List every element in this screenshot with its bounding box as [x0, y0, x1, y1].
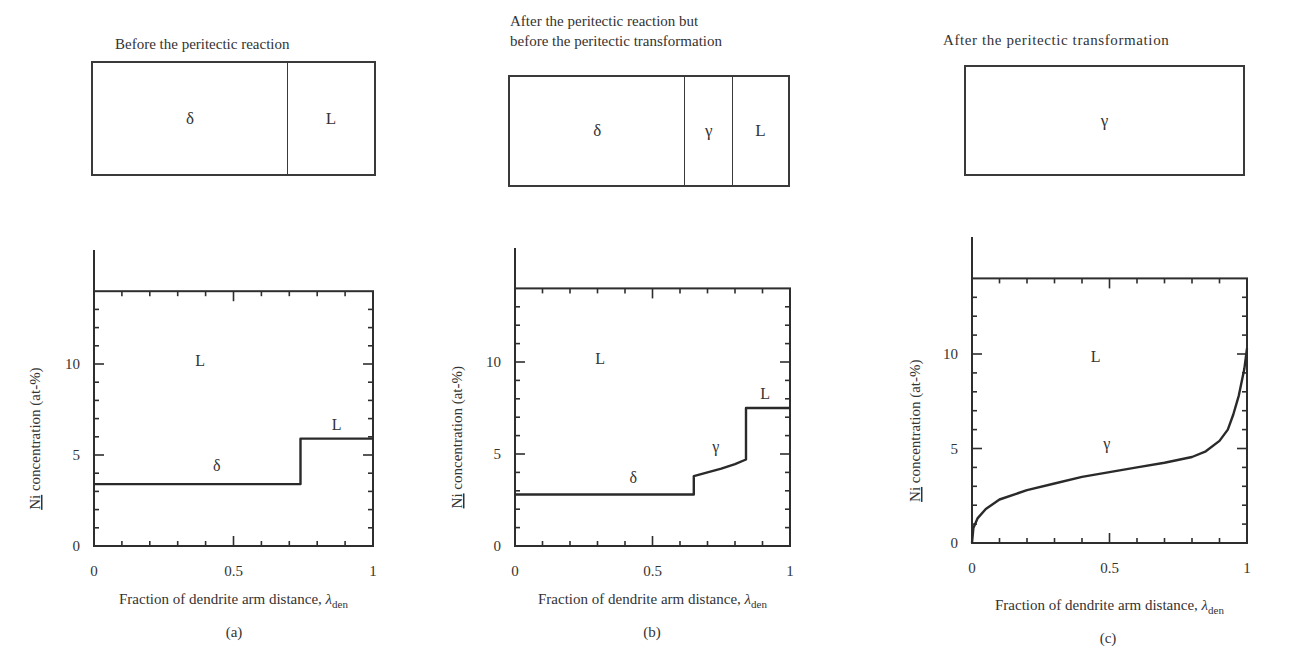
x-axis-label: Fraction of dendrite arm distance, λden	[995, 597, 1224, 616]
phase-annotation: L	[760, 385, 770, 402]
x-tick-label: 0.5	[224, 563, 243, 579]
y-axis-label: Ni concentration (at-%)	[907, 359, 924, 501]
x-tick-label: 0	[90, 563, 98, 579]
panel-caption: (b)	[643, 624, 661, 641]
x-tick-label: 0.5	[1100, 560, 1119, 576]
plot-frame	[972, 278, 1247, 543]
x-axis-label-subscript: den	[332, 598, 348, 610]
y-axis-label-element: Ni	[907, 487, 923, 502]
y-axis-label-rest: concentration (at-%)	[27, 367, 44, 494]
phase-annotation: γ	[1102, 435, 1110, 453]
plot-b: 00.510510LδγLNi concentration (at-%)Frac…	[449, 248, 794, 641]
x-axis-label-subscript: den	[751, 598, 767, 610]
concentration-curve	[94, 439, 373, 485]
x-axis-label-main: Fraction of dendrite arm distance,	[119, 591, 326, 607]
y-tick-label: 0	[494, 538, 502, 554]
y-tick-label: 0	[73, 538, 81, 554]
x-tick-label: 0	[968, 560, 976, 576]
phase-annotation: δ	[213, 457, 221, 474]
x-axis-label-subscript: den	[1208, 604, 1224, 616]
y-tick-label: 10	[65, 356, 80, 372]
x-tick-label: 1	[786, 563, 794, 579]
concentration-plots: 00.510510LδLNi concentration (at-%)Fract…	[0, 0, 1293, 670]
phase-annotation: L	[195, 352, 205, 369]
y-tick-label: 5	[951, 441, 959, 457]
plot-c: 00.510510LγNi concentration (at-%)Fracti…	[907, 237, 1251, 647]
x-axis-label-main: Fraction of dendrite arm distance,	[995, 597, 1202, 613]
y-axis-label-rest: concentration (at-%)	[449, 366, 466, 493]
x-tick-label: 1	[1243, 560, 1251, 576]
phase-annotation: L	[332, 416, 342, 433]
y-axis-label-rest: concentration (at-%)	[907, 359, 924, 486]
concentration-curve	[515, 408, 790, 495]
x-tick-label: 0.5	[643, 563, 662, 579]
y-tick-label: 5	[73, 447, 81, 463]
panel-caption: (c)	[1100, 630, 1117, 647]
x-axis-label-main: Fraction of dendrite arm distance,	[538, 591, 745, 607]
phase-annotation: L	[1091, 348, 1101, 365]
y-axis-label: Ni concentration (at-%)	[449, 366, 466, 508]
x-tick-label: 1	[369, 563, 377, 579]
y-tick-label: 10	[486, 354, 501, 370]
x-axis-label: Fraction of dendrite arm distance, λden	[538, 591, 767, 610]
y-axis-label-element: Ni	[27, 495, 43, 510]
y-axis-label-element: Ni	[449, 493, 465, 508]
plot-frame	[515, 288, 790, 546]
y-tick-label: 0	[951, 535, 959, 551]
phase-annotation: L	[595, 350, 605, 367]
y-axis-label: Ni concentration (at-%)	[27, 367, 44, 509]
y-tick-label: 10	[943, 346, 958, 362]
y-tick-label: 5	[494, 446, 502, 462]
phase-annotation: γ	[711, 438, 719, 456]
plot-a: 00.510510LδLNi concentration (at-%)Fract…	[27, 250, 377, 641]
x-axis-label: Fraction of dendrite arm distance, λden	[119, 591, 348, 610]
phase-annotation: δ	[629, 469, 637, 486]
panel-caption: (a)	[226, 624, 243, 641]
x-tick-label: 0	[511, 563, 519, 579]
